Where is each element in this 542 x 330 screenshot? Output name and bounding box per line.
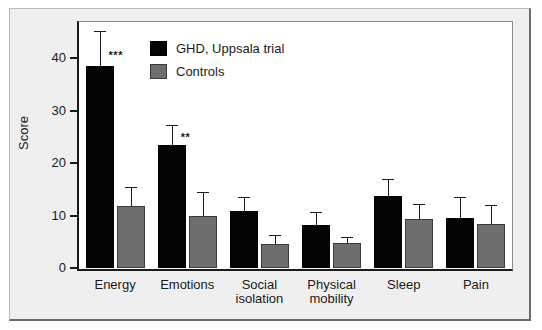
plot-area: ***** xyxy=(79,22,512,268)
bar xyxy=(302,225,330,268)
x-axis-category-label: Energy xyxy=(79,278,151,292)
y-axis-tick-label: 30 xyxy=(24,104,66,117)
y-axis-title: Score xyxy=(16,116,31,150)
error-bar-stem xyxy=(275,235,276,244)
bar xyxy=(189,216,217,269)
error-bar-cap xyxy=(413,204,425,205)
bar xyxy=(261,244,289,268)
x-axis-category-label: Social isolation xyxy=(223,278,295,306)
error-bar-stem xyxy=(460,197,461,217)
chart-legend: GHD, Uppsala trialControls xyxy=(150,38,284,84)
legend-label: Controls xyxy=(176,64,224,79)
y-axis-tick xyxy=(70,215,78,217)
x-axis-category-label: Physical mobility xyxy=(296,278,368,306)
error-bar-cap xyxy=(94,31,106,32)
y-axis-tick-label: 10 xyxy=(24,209,66,222)
bar xyxy=(405,219,433,268)
bar xyxy=(446,218,474,268)
error-bar-stem xyxy=(172,125,173,144)
error-bar-cap xyxy=(485,205,497,206)
legend-swatch-icon xyxy=(150,41,167,56)
bar xyxy=(86,66,114,268)
error-bar-cap xyxy=(310,212,322,213)
error-bar-stem xyxy=(131,187,132,206)
error-bar-cap xyxy=(197,192,209,193)
bar xyxy=(477,224,505,268)
x-axis-category-label: Emotions xyxy=(151,278,223,292)
error-bar-stem xyxy=(203,192,204,216)
y-axis-tick xyxy=(70,267,78,269)
error-bar-stem xyxy=(491,205,492,224)
x-axis-category-label: Sleep xyxy=(368,278,440,292)
bar xyxy=(158,145,186,268)
y-axis-tick xyxy=(70,57,78,59)
error-bar-stem xyxy=(100,31,101,66)
legend-item: GHD, Uppsala trial xyxy=(150,38,284,58)
y-axis-tick-label: 0 xyxy=(24,261,66,274)
error-bar-stem xyxy=(316,212,317,226)
significance-marker: ** xyxy=(181,132,191,143)
y-axis-tick xyxy=(70,162,78,164)
y-axis-tick-label: 20 xyxy=(24,156,66,169)
error-bar-cap xyxy=(454,197,466,198)
x-axis-category-label: Pain xyxy=(440,278,512,292)
significance-marker: *** xyxy=(109,50,123,61)
bar xyxy=(230,211,258,268)
bar xyxy=(333,243,361,268)
error-bar-cap xyxy=(382,179,394,180)
legend-swatch-icon xyxy=(150,64,167,79)
bar xyxy=(117,206,145,268)
figure-container: Score 403020100 ***** EnergyEmotionsSoci… xyxy=(0,0,542,330)
error-bar-cap xyxy=(341,237,353,238)
error-bar-cap xyxy=(238,197,250,198)
y-axis-tick xyxy=(70,110,78,112)
error-bar-stem xyxy=(388,179,389,196)
error-bar-stem xyxy=(419,204,420,219)
bar xyxy=(374,196,402,268)
error-bar-stem xyxy=(244,197,245,212)
error-bar-cap xyxy=(269,235,281,236)
y-axis-tick-label: 40 xyxy=(24,51,66,64)
legend-label: GHD, Uppsala trial xyxy=(176,41,284,56)
error-bar-cap xyxy=(166,125,178,126)
error-bar-cap xyxy=(125,187,137,188)
legend-item: Controls xyxy=(150,61,284,81)
